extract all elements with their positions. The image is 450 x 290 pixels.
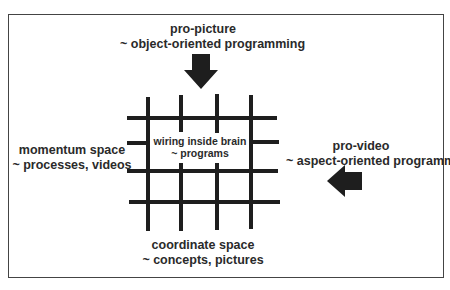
down-arrow-icon (184, 54, 218, 89)
center-label: wiring inside brain ~ programs (148, 135, 252, 159)
top-label-title: pro-picture (120, 22, 286, 37)
top-label-subtitle: ~ object-oriented programming (120, 37, 286, 52)
bottom-label-title: coordinate space (133, 238, 273, 253)
wiring-grid (127, 94, 280, 231)
left-label-subtitle: ~ processes, videos (12, 158, 132, 173)
right-label-title: pro-video (286, 139, 436, 154)
right-label: pro-video ~ aspect-oriented programming (286, 139, 436, 169)
top-label: pro-picture ~ object-oriented programmin… (120, 22, 286, 52)
center-label-title: wiring inside brain (148, 135, 252, 147)
center-label-subtitle: ~ programs (148, 147, 252, 159)
left-label-title: momentum space (12, 143, 132, 158)
bottom-label: coordinate space ~ concepts, pictures (133, 238, 273, 268)
left-label: momentum space ~ processes, videos (12, 143, 132, 173)
left-arrow-icon (327, 165, 362, 197)
bottom-label-subtitle: ~ concepts, pictures (133, 253, 273, 268)
right-label-subtitle: ~ aspect-oriented programming (286, 154, 436, 169)
